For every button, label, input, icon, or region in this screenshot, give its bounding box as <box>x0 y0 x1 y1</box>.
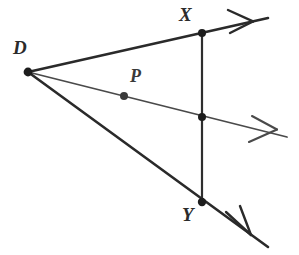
point-label-y: Y <box>182 205 194 224</box>
point-label-x: X <box>179 5 192 24</box>
point-dot-p <box>120 92 128 100</box>
diagram-canvas <box>0 0 299 255</box>
point-dot-m <box>198 113 206 121</box>
ray-bottom-line <box>28 72 268 247</box>
ray-middle-line <box>28 72 287 137</box>
points-group <box>24 29 207 206</box>
point-dot-x <box>198 29 206 37</box>
point-label-d: D <box>13 38 27 57</box>
rays-group <box>28 18 287 247</box>
point-dot-y <box>198 198 206 206</box>
geometry-figure: D X P Y <box>0 0 299 255</box>
point-label-p: P <box>130 67 141 85</box>
arrowheads-group <box>226 10 277 235</box>
ray-top-line <box>28 18 268 72</box>
point-dot-d <box>24 68 33 77</box>
